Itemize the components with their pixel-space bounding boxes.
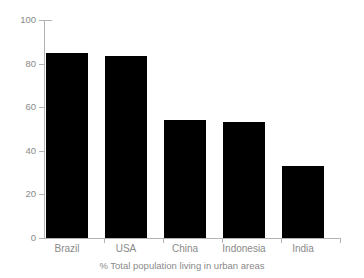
- bar-indonesia: [223, 122, 265, 238]
- x-axis-label-brazil: Brazil: [54, 243, 79, 255]
- x-axis-tick: [340, 238, 341, 243]
- x-axis-label-usa: USA: [116, 243, 137, 255]
- bar-usa: [105, 56, 147, 238]
- bar-chart-figure: 020406080100 BrazilUSAChinaIndonesiaIndi…: [0, 0, 364, 278]
- x-axis-label-china: China: [172, 243, 198, 255]
- bar-brazil: [46, 53, 88, 238]
- bar-india: [282, 166, 324, 238]
- bar-china: [164, 120, 206, 238]
- x-axis-tick: [104, 238, 105, 243]
- x-axis-tick: [163, 238, 164, 243]
- bars-layer: [0, 0, 364, 278]
- x-axis-label-indonesia: Indonesia: [222, 243, 265, 255]
- x-axis-tick: [281, 238, 282, 243]
- chart-caption: % Total population living in urban areas: [0, 260, 364, 272]
- x-axis-label-india: India: [292, 243, 314, 255]
